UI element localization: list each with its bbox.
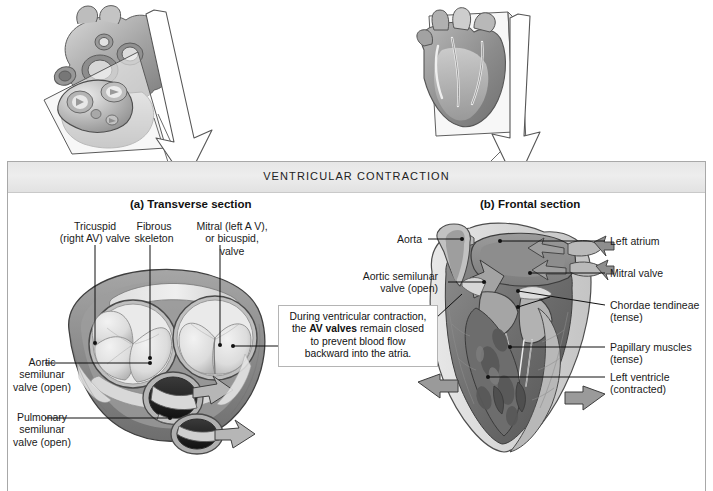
label-papillary-muscles: Papillary muscles (tense) <box>610 341 713 366</box>
callout-line-4: backward into the atria. <box>283 348 433 360</box>
label-aorta: Aorta <box>350 233 422 245</box>
callout-line-1: During ventricular contraction, <box>283 311 433 323</box>
label-fibrous-skeleton: Fibrous skeleton <box>122 220 186 245</box>
label-chordae-tendineae: Chordae tendineae (tense) <box>610 299 713 324</box>
label-aortic-semilunar-valve-frontal: Aortic semilunar valve (open) <box>322 270 438 295</box>
label-pulmonary-semilunar-valve: Pulmonary semilunar valve (open) <box>2 411 82 448</box>
banner-title: VENTRICULAR CONTRACTION <box>8 170 705 182</box>
inset-heart-transverse <box>8 2 208 162</box>
callout-box: During ventricular contraction, the AV v… <box>278 305 438 367</box>
label-left-atrium: Left atrium <box>610 235 710 247</box>
label-mitral-valve: Mitral valve <box>610 267 710 279</box>
label-aortic-semilunar-valve-transverse: Aortic semilunar valve (open) <box>2 356 82 393</box>
label-left-ventricle: Left ventricle (contracted) <box>610 371 713 396</box>
callout-line-3: to prevent blood flow <box>283 336 433 348</box>
callout-line-2: the AV valves remain closed <box>283 323 433 335</box>
label-mitral-bicuspid-valve: Mitral (left A V), or bicuspid, valve <box>186 220 278 257</box>
section-a-title: (a) Transverse section <box>130 198 251 210</box>
section-b-title: (b) Frontal section <box>480 198 580 210</box>
inset-heart-frontal <box>404 2 594 162</box>
